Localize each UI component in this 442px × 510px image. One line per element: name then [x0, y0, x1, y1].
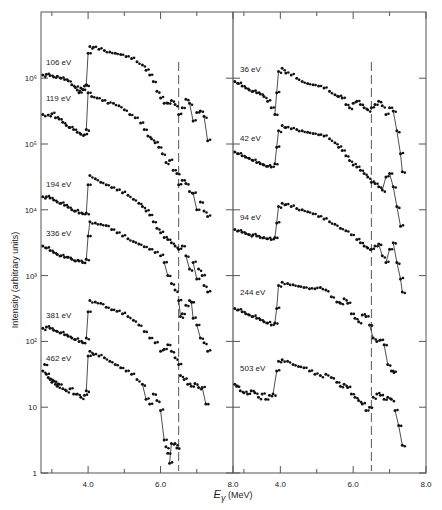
y-tick-label: 10⁴ [25, 206, 38, 215]
series-462-eV: 462 eV [41, 350, 180, 465]
series-label: 462 eV [46, 354, 72, 363]
series-244-eV: 244 eV [233, 281, 397, 374]
series-label: 42 eV [240, 134, 262, 143]
series-label: 119 eV [46, 94, 71, 103]
x-axis-title: Eγ (MeV) [214, 488, 253, 503]
series-336-eV: 336 eV [41, 220, 211, 353]
series-503-eV: 503 eV [233, 358, 406, 447]
plot-panels: 106 eV119 eV194 eV336 eV381 eV462 eV36 e… [41, 45, 406, 471]
series-94-eV: 94 eV [233, 202, 406, 295]
series-label: 244 eV [240, 288, 266, 297]
y-tick-label: 10² [25, 337, 37, 346]
x-tick-label: 4.0 [275, 480, 287, 489]
y-tick-label: 1 [33, 469, 38, 478]
series-label: 194 eV [46, 180, 72, 189]
y-tick-label: 10⁵ [25, 140, 37, 149]
x-tick-label: 6.0 [348, 480, 360, 489]
series-36-eV: 36 eV [233, 65, 406, 174]
series-label: 381 eV [46, 311, 72, 320]
y-tick-label: 10 [28, 403, 37, 412]
x-tick-label: 8.0 [420, 480, 432, 489]
y-tick-label: 10³ [25, 272, 37, 281]
series-label: 336 eV [46, 229, 72, 238]
series-label: 503 eV [240, 364, 266, 373]
x-tick-label: 4.0 [83, 480, 95, 489]
series-label: 106 eV [46, 58, 72, 67]
x-tick-label: 6.0 [155, 480, 167, 489]
series-label: 94 eV [240, 213, 262, 222]
y-axis-title: Intensity (arbitrary units) [10, 232, 20, 329]
series-119-eV: 119 eV [41, 91, 211, 218]
series-label: 36 eV [240, 65, 262, 74]
x-tick-label: 8.0 [227, 480, 239, 489]
y-tick-label: 10⁶ [25, 74, 37, 83]
spectra-chart: 11010²10³10⁴10⁵10⁶ 4.06.08.04.06.08.0 10… [0, 0, 442, 510]
